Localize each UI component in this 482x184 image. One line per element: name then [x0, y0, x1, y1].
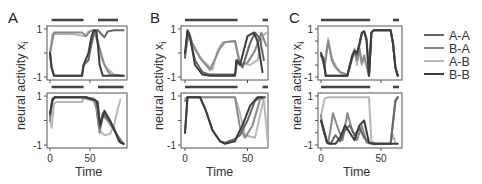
- subplot-a-bottom: [44, 87, 127, 151]
- y-tick-label: 1: [170, 24, 176, 35]
- legend-label-a-a: A-A: [449, 29, 471, 43]
- x-axis-label-b: Time: [206, 165, 233, 179]
- y-tick-label: -1: [33, 72, 42, 83]
- y-tick-label: 1: [170, 91, 176, 102]
- y-tick-label: -1: [304, 140, 313, 151]
- figure-canvas: A B C neural activity xi neural activity…: [0, 0, 482, 184]
- x-tick-label: 0: [47, 153, 53, 164]
- subplot-b-top: [178, 20, 268, 83]
- y-tick-label: 1: [307, 91, 313, 102]
- panel-label-a: A: [8, 9, 18, 26]
- y-axis-label-b: neural activity xi: [152, 42, 168, 130]
- legend: A-AB-AA-BB-B: [424, 29, 471, 82]
- x-tick-label: 50: [84, 153, 96, 164]
- legend-label-a-b: A-B: [449, 55, 470, 69]
- subplot-b-bottom: [178, 87, 268, 151]
- x-tick-label: 50: [375, 153, 387, 164]
- x-tick-label: 0: [318, 153, 324, 164]
- subplot-c-bottom: [315, 87, 402, 151]
- y-tick-label: -1: [33, 140, 42, 151]
- y-tick-label: -1: [304, 72, 313, 83]
- panel-label-b: B: [150, 9, 160, 26]
- axes-frame: [318, 93, 402, 148]
- plot-area: [44, 20, 402, 151]
- y-tick-label: 1: [36, 91, 42, 102]
- subplot-a-top: [44, 20, 127, 83]
- x-tick-label: 0: [182, 153, 188, 164]
- trace-a-a: [50, 30, 124, 76]
- panel-label-c: C: [289, 9, 300, 26]
- x-axis-label-a: Time: [75, 165, 102, 179]
- trace-a-a: [50, 97, 124, 144]
- y-axis-label-a: neural activity xi: [14, 42, 30, 130]
- x-tick-label: 50: [242, 153, 254, 164]
- trace-b-a: [50, 97, 124, 144]
- subplot-c-top: [315, 20, 402, 83]
- legend-label-b-b: B-B: [449, 68, 470, 82]
- y-tick-label: 1: [36, 24, 42, 35]
- trace-b-a: [50, 30, 124, 76]
- trace-b-a: [321, 97, 398, 144]
- trace-a-b: [50, 30, 124, 76]
- legend-label-b-a: B-A: [449, 42, 471, 56]
- trace-b-b: [50, 97, 124, 144]
- trace-b-a: [321, 30, 398, 76]
- y-tick-label: 1: [307, 24, 313, 35]
- y-tick-label: -1: [167, 140, 176, 151]
- trace-b-b: [50, 30, 124, 76]
- trace-a-a: [185, 97, 265, 142]
- trace-a-b: [50, 97, 120, 135]
- y-tick-label: -1: [167, 72, 176, 83]
- y-axis-label-c: neural activity xi: [290, 42, 306, 130]
- x-axis-label-c: Time: [343, 165, 370, 179]
